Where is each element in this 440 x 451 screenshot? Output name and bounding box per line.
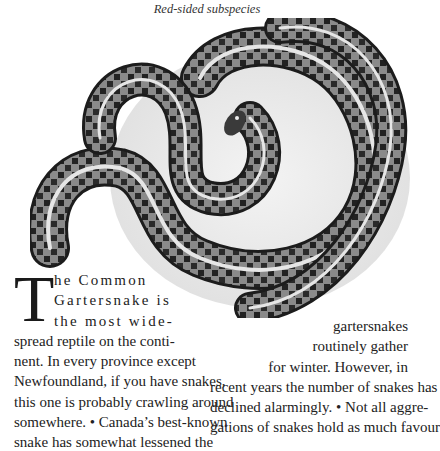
text-line: recent years the number of snakes has [210,377,408,397]
text-line: snake has somewhat lessened the [14,432,210,451]
article-right-column: gartersnakes routinely gather for winter… [210,316,408,438]
text-line: he Common [14,270,210,290]
text-line: spread reptile on the conti- [14,331,210,351]
text-line: declined alarmingly. • Not all aggre- [210,397,408,417]
text-line: gations of snakes hold as much favour [210,417,408,437]
figure-caption: Red-sided subspecies [0,2,414,17]
text-line: Gartersnake is [14,290,210,310]
text-line: somewhere. • Canada’s best-known [14,412,210,432]
text-line: for winter. However, in [210,357,408,377]
article-left-column: he Common Gartersnake is the most wide- … [14,270,210,451]
text-line: routinely gather [210,336,408,356]
text-line: nent. In every province except [14,351,210,371]
text-line: the most wide- [14,311,210,331]
text-line: Newfoundland, if you have snakes, [14,371,210,391]
text-line: this one is probably crawling around [14,392,210,412]
text-line: gartersnakes [210,316,408,336]
